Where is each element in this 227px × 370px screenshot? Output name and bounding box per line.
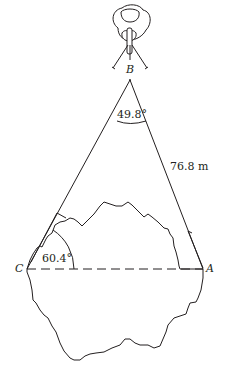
lake-outline <box>27 202 203 360</box>
angle-arc-B <box>117 121 146 124</box>
point-label-C: C <box>15 262 24 275</box>
edge-detail-A <box>188 231 203 268</box>
point-label-A: A <box>205 262 214 275</box>
observer-figure <box>112 5 150 69</box>
edge-detail-C-tick <box>57 213 66 218</box>
point-label-B: B <box>125 63 134 76</box>
angle-label-B: 49.8° <box>117 108 147 121</box>
length-label-BA: 76.8 m <box>170 160 209 173</box>
angle-label-C: 60.4° <box>42 252 72 265</box>
diagram-canvas: B 49.8° 60.4° 76.8 m C A <box>0 0 227 370</box>
